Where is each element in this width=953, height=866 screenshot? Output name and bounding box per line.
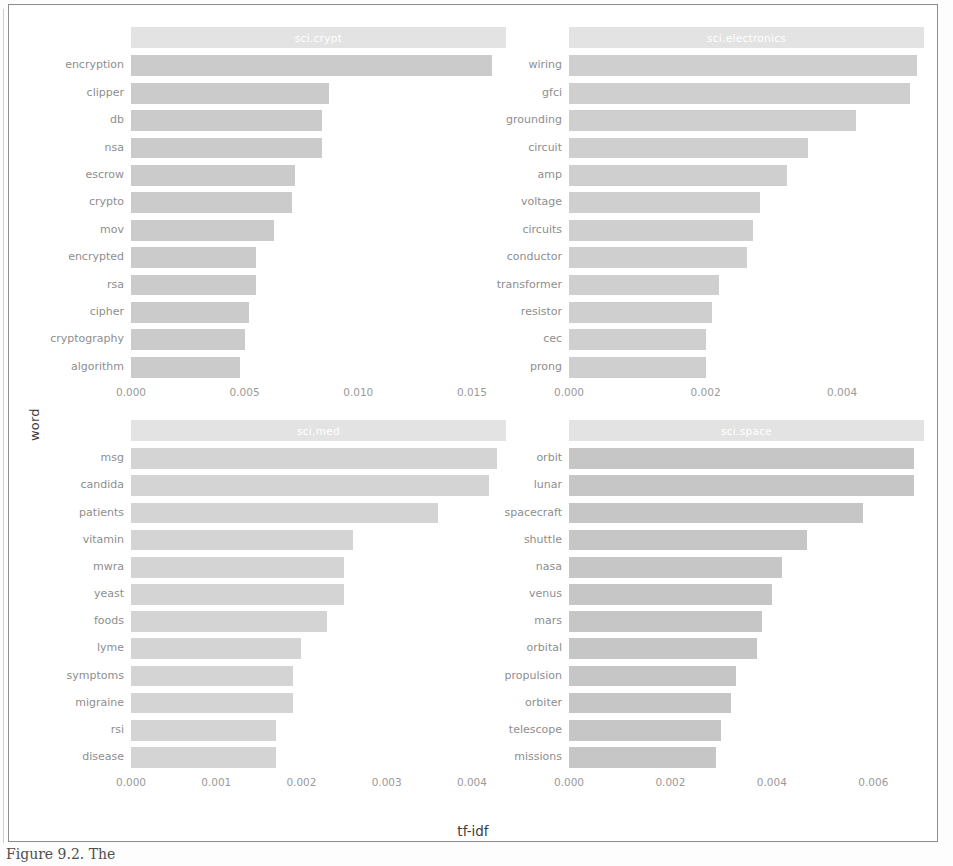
bar-row: mov [131,220,506,241]
bar-category-label: encrypted [68,247,124,268]
bar-category-label: transformer [497,275,562,296]
facet-panel: sci.medmsgcandidapatientsvitaminmwrayeas… [131,420,506,793]
bar-category-label: nsa [105,138,124,159]
bar-category-label: conductor [507,247,562,268]
x-axis-tick-label: 0.000 [554,776,584,788]
bar-row: prong [569,357,924,378]
bar-category-label: yeast [94,584,124,605]
bar-category-label: encryption [65,55,124,76]
x-axis-tick-label: 0.006 [858,776,888,788]
bar-row: disease [131,747,506,768]
x-axis-tick-label: 0.010 [343,386,373,398]
bar [569,584,772,605]
bar-category-label: nasa [536,557,562,578]
bar-row: orbiter [569,693,924,714]
bar [131,503,438,524]
bar-category-label: missions [514,747,562,768]
bar-category-label: prong [530,357,562,378]
bar [131,55,492,76]
bar [131,192,292,213]
bar-category-label: cryptography [50,329,124,350]
bar-row: gfci [569,83,924,104]
bar [569,329,706,350]
bar-row: propulsion [569,666,924,687]
facet-strip-label: sci.electronics [569,27,924,48]
bar-row: transformer [569,275,924,296]
bar-row: cipher [131,302,506,323]
bar-row: encryption [131,55,506,76]
bar [569,83,910,104]
x-axis-tick-label: 0.000 [554,386,584,398]
bar-row: grounding [569,110,924,131]
bar [569,110,856,131]
bar-category-label: amp [538,165,562,186]
bar-category-label: orbital [527,638,562,659]
bar [131,275,256,296]
facet-panel: sci.electronicswiringgfcigroundingcircui… [569,27,924,403]
bar [131,557,344,578]
x-axis-ticks: 0.0000.0020.004 [569,386,924,404]
facet-strip-label: sci.crypt [131,27,506,48]
bar [569,357,706,378]
facet-plot-area: orbitlunarspacecraftshuttlenasavenusmars… [569,441,924,771]
bar-row: foods [131,611,506,632]
bar [569,557,782,578]
bar-row: amp [569,165,924,186]
bar-category-label: propulsion [505,666,563,687]
bar [131,247,256,268]
facet-panel: sci.spaceorbitlunarspacecraftshuttlenasa… [569,420,924,793]
bar [131,110,322,131]
bar-row: escrow [131,165,506,186]
bar-category-label: patients [79,503,124,524]
bar-row: orbit [569,448,924,469]
bar-category-label: gfci [542,83,562,104]
bar-row: cryptography [131,329,506,350]
x-axis-ticks: 0.0000.0010.0020.0030.004 [131,776,506,794]
bar-category-label: circuits [522,220,562,241]
scanned-page: word tf-idf sci.cryptencryptionclipperdb… [0,0,953,866]
bar-row: rsi [131,720,506,741]
bar-category-label: clipper [87,83,124,104]
bar [569,302,712,323]
bar [131,220,274,241]
bar-row: circuits [569,220,924,241]
bar-row: mwra [131,557,506,578]
bar [569,220,753,241]
bar [569,448,914,469]
bar-row: spacecraft [569,503,924,524]
bar [131,165,295,186]
bar-row: venus [569,584,924,605]
bar-row: resistor [569,302,924,323]
bar-category-label: wiring [528,55,562,76]
bar-category-label: symptoms [67,666,124,687]
bar-row: vitamin [131,530,506,551]
bar-row: wiring [569,55,924,76]
bar-row: shuttle [569,530,924,551]
bar [569,192,760,213]
bar [569,693,731,714]
x-axis-tick-label: 0.002 [655,776,685,788]
facet-plot-area: encryptionclipperdbnsaescrowcryptomovenc… [131,48,506,381]
x-axis-ticks: 0.0000.0050.0100.015 [131,386,506,404]
bar [569,275,719,296]
bar-category-label: orbiter [525,693,562,714]
x-axis-tick-label: 0.002 [691,386,721,398]
bar-row: nsa [131,138,506,159]
bar [569,666,736,687]
bar-category-label: msg [101,448,124,469]
bar-row: algorithm [131,357,506,378]
bar-row: patients [131,503,506,524]
bar-category-label: shuttle [524,530,562,551]
bar-row: missions [569,747,924,768]
bar [131,475,489,496]
bar-category-label: crypto [89,192,124,213]
bar-row: db [131,110,506,131]
bar-category-label: vitamin [83,530,124,551]
bar-row: crypto [131,192,506,213]
bar [569,475,914,496]
bar-row: rsa [131,275,506,296]
bar-row: voltage [569,192,924,213]
x-axis-title: tf-idf [9,823,937,839]
x-axis-tick-label: 0.002 [286,776,316,788]
facet-plot-area: wiringgfcigroundingcircuitampvoltagecirc… [569,48,924,381]
